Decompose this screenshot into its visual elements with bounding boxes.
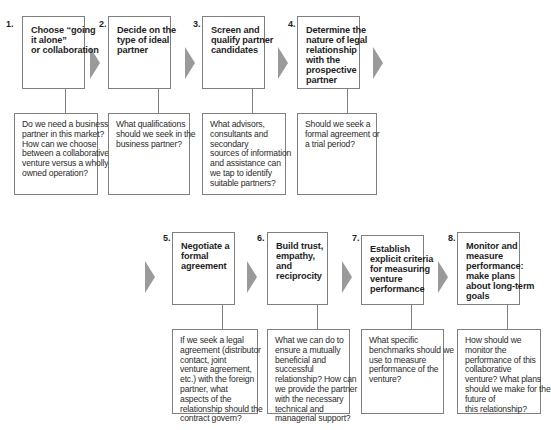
step-title-line: for measuring (370, 264, 418, 274)
step-title-line: Decide on the (117, 25, 165, 35)
step-title-line: qualify partner (211, 35, 259, 45)
step-title-line: measure (466, 251, 514, 261)
connector-line (411, 305, 412, 329)
connector-line (65, 89, 66, 113)
step-number: 7. (352, 233, 360, 243)
step-title-line: type of ideal (117, 35, 165, 45)
connector-line (507, 305, 508, 329)
step-number: 2. (99, 19, 107, 29)
step-question-line: owned operation? (22, 169, 93, 179)
step-question-line: suitable partners? (210, 179, 281, 189)
step-title-line: Determine the (306, 25, 354, 35)
step-title-line: partner (117, 45, 165, 55)
step-title-line: make plans (466, 271, 514, 281)
flow-arrow-icon (438, 261, 448, 293)
step-title-line: it alone” (31, 35, 79, 45)
step-title-box: Build trust,empathy,andreciprocity (267, 232, 328, 305)
step-title-line: agreement (181, 261, 229, 271)
connector-line (252, 89, 253, 113)
flow-arrow-icon (145, 261, 155, 293)
step-title-line: Screen and (211, 25, 259, 35)
step-title-line: or collaboration (31, 45, 79, 55)
step-title-line: Monitor and (466, 241, 514, 251)
step-title-line: about long-term (466, 281, 514, 291)
step-number: 8. (448, 233, 456, 243)
step-title-line: goals (466, 291, 514, 301)
step-number: 3. (193, 19, 201, 29)
step-question-box: What we can do toensure a mutuallybenefi… (267, 329, 350, 414)
step-question-box: Do we need a businesspartner in this mar… (14, 113, 98, 195)
step-title-line: and (276, 261, 322, 271)
step-title-line: venture (370, 274, 418, 284)
step-title-box: Decide on thetype of idealpartner (108, 16, 171, 89)
step-question-line: venture? (369, 375, 439, 385)
step-number: 6. (257, 233, 265, 243)
step-question-line: this relationship? (465, 405, 536, 415)
step-title-line: Build trust, (276, 241, 322, 251)
step-number: 5. (163, 233, 171, 243)
step-question-box: How should wemonitor theperformance of t… (457, 329, 541, 414)
step-title-line: Establish (370, 244, 418, 254)
step-question-box: If we seek a legalagreement (distributor… (172, 329, 258, 414)
step-question-line: managerial support? (275, 414, 345, 424)
step-title-box: Establishexplicit criteriafor measuringv… (361, 235, 424, 305)
flow-arrow-icon (373, 47, 383, 79)
flow-arrow-icon (185, 47, 195, 79)
step-question-line: business partner? (116, 140, 185, 150)
step-title-line: reciprocity (276, 271, 322, 281)
flow-arrow-icon (278, 47, 288, 79)
step-title-line: partner (306, 75, 354, 85)
step-number: 1. (6, 19, 14, 29)
step-title-line: relationship (306, 45, 354, 55)
step-title-box: Choose “goingit alone”or collaboration (22, 16, 85, 89)
flow-arrow-icon (247, 261, 257, 293)
step-title-line: performance (370, 284, 418, 294)
step-title-line: with the (306, 55, 354, 65)
step-question-line: a trial period? (305, 140, 372, 150)
step-title-line: formal (181, 251, 229, 261)
step-title-line: candidates (211, 45, 259, 55)
step-question-box: What qualificationsshould we seek in the… (108, 113, 190, 195)
connector-line (347, 89, 348, 113)
step-title-box: Monitor andmeasureperformance:make plans… (457, 232, 520, 305)
step-title-line: explicit criteria (370, 254, 418, 264)
connector-line (158, 89, 159, 113)
step-title-line: Choose “going (31, 25, 79, 35)
step-title-line: performance: (466, 261, 514, 271)
connector-line (317, 305, 318, 329)
flow-arrow-icon (342, 261, 352, 293)
step-title-line: prospective (306, 65, 354, 75)
step-title-line: Negotiate a (181, 241, 229, 251)
step-title-line: nature of legal (306, 35, 354, 45)
step-question-line: contract govern? (180, 414, 253, 424)
step-question-box: What advisors,consultants andsecondaryso… (202, 113, 286, 195)
step-title-box: Determine thenature of legalrelationship… (297, 16, 360, 89)
step-question-box: What specificbenchmarks should weuse to … (361, 329, 444, 414)
step-title-box: Negotiate aformalagreement (172, 232, 235, 305)
step-number: 4. (288, 19, 296, 29)
step-title-box: Screen andqualify partnercandidates (202, 16, 265, 89)
connector-line (222, 305, 223, 329)
step-title-line: empathy, (276, 251, 322, 261)
step-question-box: Should we seek aformal agreement ora tri… (297, 113, 377, 195)
